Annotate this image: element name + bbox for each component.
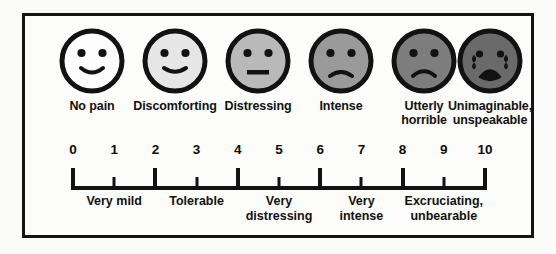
scale-tick-9 xyxy=(442,177,445,190)
scale-number-8[interactable]: 8 xyxy=(399,142,407,158)
face-discomforting[interactable]: Discomforting xyxy=(136,16,214,142)
face-no-pain-icon xyxy=(57,26,127,96)
scale-tick-4 xyxy=(236,168,240,190)
desc-tolerable: Tolerable xyxy=(169,194,224,209)
diagram-panel: No painDiscomfortingDistressingIntenseUt… xyxy=(22,13,534,238)
scale-tick-3 xyxy=(195,177,198,190)
face-no-pain[interactable]: No pain xyxy=(53,16,131,142)
pain-scale-diagram: No painDiscomfortingDistressingIntenseUt… xyxy=(0,0,556,254)
numeric-scale: 012345678910 Very mildTolerableVery dist… xyxy=(25,142,537,238)
face-unimaginable-icon xyxy=(455,26,525,96)
face-distressing-icon xyxy=(223,26,293,96)
scale-tick-10 xyxy=(483,168,487,190)
desc-excruciating: Excruciating, unbearable xyxy=(405,194,484,224)
scale-descriptor-labels: Very mildTolerableVery distressingVery i… xyxy=(25,194,537,236)
scale-number-10[interactable]: 10 xyxy=(477,142,492,158)
face-intense[interactable]: Intense xyxy=(302,16,380,142)
scale-tick-8 xyxy=(401,168,405,190)
scale-number-7[interactable]: 7 xyxy=(358,142,366,158)
face-utterly-horrible-icon xyxy=(389,26,459,96)
scale-number-labels: 012345678910 xyxy=(25,142,537,160)
scale-tick-6 xyxy=(318,168,322,190)
face-unimaginable-label: Unimaginable, unspeakable xyxy=(439,100,541,127)
scale-tick-0 xyxy=(71,168,75,190)
scale-axis xyxy=(25,162,537,190)
desc-very-mild: Very mild xyxy=(86,194,142,209)
scale-tick-1 xyxy=(113,177,116,190)
scale-number-0[interactable]: 0 xyxy=(69,142,77,158)
scale-number-2[interactable]: 2 xyxy=(152,142,160,158)
faces-row: No painDiscomfortingDistressingIntenseUt… xyxy=(25,16,537,142)
face-unimaginable[interactable]: Unimaginable, unspeakable xyxy=(451,16,529,142)
face-distressing[interactable]: Distressing xyxy=(219,16,297,142)
desc-very-intense: Very intense xyxy=(340,194,384,224)
scale-number-1[interactable]: 1 xyxy=(110,142,118,158)
desc-very-distressing: Very distressing xyxy=(246,194,313,224)
scale-number-3[interactable]: 3 xyxy=(193,142,201,158)
face-discomforting-icon xyxy=(140,26,210,96)
scale-number-6[interactable]: 6 xyxy=(316,142,324,158)
scale-number-4[interactable]: 4 xyxy=(234,142,242,158)
scale-number-9[interactable]: 9 xyxy=(440,142,448,158)
scale-tick-2 xyxy=(153,168,157,190)
face-intense-icon xyxy=(306,26,376,96)
scale-tick-5 xyxy=(278,177,281,190)
scale-number-5[interactable]: 5 xyxy=(275,142,283,158)
scale-tick-7 xyxy=(360,177,363,190)
